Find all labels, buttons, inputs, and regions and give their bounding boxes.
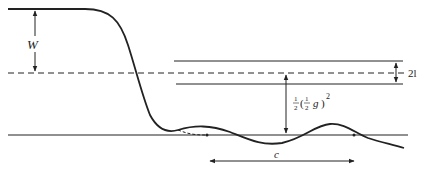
svg-text:1: 1 (305, 95, 309, 103)
amplitude-label: 2l (408, 67, 417, 79)
svg-text:2: 2 (294, 104, 298, 112)
height-label: 1 2 ( 1 2 g ) 2 (293, 92, 330, 112)
w-label: W (27, 37, 39, 52)
baseline-marker-right (353, 134, 356, 137)
wave-profile-curve (8, 9, 404, 148)
c-label: c (274, 148, 279, 160)
svg-text:(: ( (300, 97, 304, 110)
svg-text:): ) (321, 97, 325, 110)
svg-text:1: 1 (294, 95, 298, 103)
svg-text:2: 2 (305, 104, 309, 112)
baseline-marker-left (206, 134, 209, 137)
svg-text:2: 2 (326, 92, 330, 101)
dashed-mean-curve (178, 130, 205, 135)
svg-text:g: g (313, 97, 319, 109)
bore-diagram: W 2l 1 2 ( 1 2 g ) 2 c (0, 0, 424, 171)
